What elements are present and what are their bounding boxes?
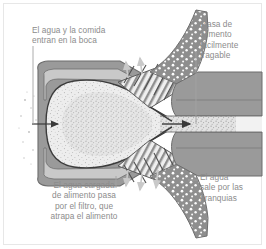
label-water-exits-through-gills: El agua sale por las branquias — [200, 172, 260, 203]
label-food-laden-water-passes-filter: El agua cargada de alimento pasa por el … — [28, 180, 140, 222]
food-particles — [18, 91, 36, 164]
label-water-and-food-enter-mouth: El agua y la comida entran en la boca — [32, 25, 144, 46]
figure-screenshot: El agua y la comida entran en la boca Ma… — [0, 0, 266, 249]
pharynx-wall-upper — [172, 72, 263, 116]
label-easily-swallowed-food-mass: Masa de alimento fácilmente tragable — [200, 19, 260, 61]
pharynx-wall-lower — [172, 132, 263, 176]
